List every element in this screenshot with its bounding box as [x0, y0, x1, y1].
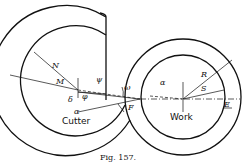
label-psi: ψ [96, 75, 103, 84]
label-alpha-work: α [160, 78, 166, 87]
cutter-outer-circle [0, 6, 130, 156]
label-M: M [55, 77, 65, 86]
label-S: S [201, 84, 207, 93]
diagram: N M ψ δ φ α ω F α R S E Cutter Work Fig.… [0, 0, 244, 166]
label-E: E [223, 100, 230, 109]
label-R: R [200, 70, 207, 79]
label-F: F [127, 103, 134, 112]
label-N: N [51, 61, 60, 70]
figure-caption: Fig. 157. [100, 153, 136, 162]
label-phi: φ [82, 92, 88, 101]
label-omega: ω [124, 83, 131, 92]
cutter-face [100, 13, 106, 100]
label-cutter: Cutter [62, 116, 91, 126]
label-alpha-cutter: α [74, 107, 80, 116]
label-work: Work [170, 112, 194, 122]
label-delta: δ [68, 95, 73, 104]
